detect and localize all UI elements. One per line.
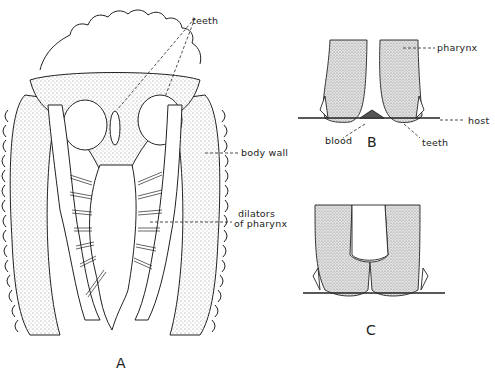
panel-label-c: C <box>366 322 376 338</box>
leech-anatomy-diagram <box>0 0 495 374</box>
jaw-center <box>110 111 120 145</box>
panel-label-b: B <box>367 134 377 150</box>
label-pharynx: pharynx <box>437 42 477 53</box>
jaw-left <box>63 100 107 150</box>
label-blood: blood <box>325 135 352 146</box>
label-teeth-a: teeth <box>192 15 218 26</box>
panel-a-drawing <box>2 10 238 335</box>
label-teeth-b: teeth <box>422 137 448 148</box>
label-of-pharynx: of pharynx <box>234 218 287 229</box>
label-body-wall: body wall <box>241 147 288 158</box>
panel-label-a: A <box>116 355 126 371</box>
label-host: host <box>468 115 489 126</box>
panel-b-drawing <box>298 40 465 138</box>
pharynx-cavity <box>90 165 137 330</box>
panel-c-drawing <box>303 205 445 296</box>
